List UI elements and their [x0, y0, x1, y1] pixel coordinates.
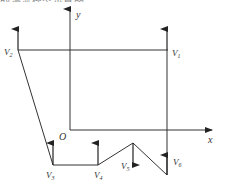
vertex-label-v6: V6: [173, 157, 182, 168]
vertex-label-v5: V5: [121, 161, 130, 172]
x-axis-label: x: [207, 134, 213, 145]
polygon-velocity-diagram: y x O V1 V2 V3 V4 V5 V6: [0, 0, 228, 188]
origin-label: O: [59, 131, 66, 142]
vertex-label-v2: V2: [4, 47, 13, 58]
vertex-label-v1: V1: [172, 48, 181, 59]
vertex-label-v4: V4: [94, 170, 103, 181]
vertex-label-v3: V3: [46, 170, 55, 181]
polygon-outline: [18, 50, 168, 175]
y-axis-label: y: [75, 9, 81, 20]
